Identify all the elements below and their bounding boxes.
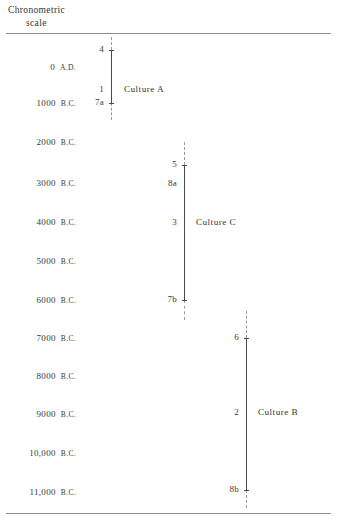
scale-tick-number: 11,000 [30, 487, 61, 497]
culture-c-node-label: 8a [150, 178, 177, 188]
scale-tick-era: B.C. [61, 449, 76, 458]
scale-tick-label: 3000 B.C. [0, 178, 76, 188]
scale-tick-number: 2000 [37, 137, 61, 147]
culture-b-node-label: 8b [212, 484, 239, 494]
scale-tick-number: 10,000 [29, 448, 61, 458]
scale-tick-label: 8000 B.C. [0, 371, 76, 381]
culture-c-uncertain-extension-lower [184, 300, 185, 320]
scale-tick-number: 4000 [37, 217, 61, 227]
scale-tick-era: B.C. [61, 296, 76, 305]
scale-tick-number: 8000 [37, 371, 61, 381]
scale-tick-era: B.C. [61, 138, 76, 147]
scale-tick-label: 9000 B.C. [0, 409, 76, 419]
culture-a-uncertain-extension-lower [111, 103, 112, 120]
chronometric-scale-figure: Chronometric scale 0 A.D.1000 B.C.2000 B… [0, 0, 337, 532]
scale-tick-number: 0 [50, 62, 60, 72]
scale-tick-label: 2000 B.C. [0, 137, 76, 147]
culture-a-uncertain-extension-upper [111, 37, 112, 50]
culture-b-name: Culture B [258, 407, 298, 417]
culture-c-endpoint-tick [182, 165, 187, 166]
scale-tick-label: 11,000 B.C. [0, 487, 76, 497]
culture-b-uncertain-extension-lower [246, 490, 247, 508]
scale-tick-label: 0 A.D. [0, 62, 76, 72]
culture-a-node-label: 7a [77, 97, 104, 107]
culture-c-endpoint-tick [182, 300, 187, 301]
culture-a-endpoint-tick [109, 50, 114, 51]
scale-tick-era: B.C. [61, 179, 76, 188]
culture-c-node-label: 7b [150, 294, 177, 304]
culture-a-name: Culture A [124, 84, 164, 94]
scale-tick-era: B.C. [61, 410, 76, 419]
scale-tick-era: B.C. [61, 334, 76, 343]
culture-a-range-bar[interactable] [111, 50, 112, 103]
culture-b-endpoint-tick [244, 490, 249, 491]
scale-tick-label: 1000 B.C. [0, 98, 76, 108]
scale-tick-era: B.C. [61, 218, 76, 227]
culture-b-endpoint-tick [244, 338, 249, 339]
culture-b-range-bar[interactable] [246, 338, 247, 490]
figure-title-line-1: Chronometric [8, 4, 65, 17]
culture-a-node-label: 1 [77, 84, 104, 94]
scale-tick-label: 4000 B.C. [0, 217, 76, 227]
scale-tick-number: 9000 [37, 409, 61, 419]
scale-tick-label: 10,000 B.C. [0, 448, 76, 458]
scale-tick-number: 5000 [37, 256, 61, 266]
header-rule [6, 33, 331, 34]
culture-b-node-label: 2 [212, 407, 239, 417]
culture-b-uncertain-extension-upper [246, 311, 247, 338]
culture-c-node-label: 5 [150, 159, 177, 169]
scale-tick-number: 7000 [37, 333, 61, 343]
scale-tick-number: 1000 [37, 98, 61, 108]
scale-tick-era: A.D. [60, 63, 76, 72]
scale-tick-era: B.C. [61, 372, 76, 381]
scale-tick-number: 3000 [37, 178, 61, 188]
culture-c-node-label: 3 [150, 217, 177, 227]
culture-c-range-bar[interactable] [184, 165, 185, 300]
footer-rule [6, 513, 331, 514]
culture-c-uncertain-extension-upper [184, 142, 185, 165]
culture-b-node-label: 6 [212, 332, 239, 342]
scale-tick-label: 6000 B.C. [0, 295, 76, 305]
culture-a-node-label: 4 [77, 44, 104, 54]
figure-title-line-2: scale [26, 17, 47, 30]
scale-tick-era: B.C. [61, 257, 76, 266]
culture-a-endpoint-tick [109, 103, 114, 104]
scale-tick-number: 6000 [37, 295, 61, 305]
scale-tick-label: 5000 B.C. [0, 256, 76, 266]
scale-tick-era: B.C. [61, 99, 76, 108]
culture-c-name: Culture C [196, 217, 236, 227]
scale-tick-label: 7000 B.C. [0, 333, 76, 343]
scale-tick-era: B.C. [61, 488, 76, 497]
